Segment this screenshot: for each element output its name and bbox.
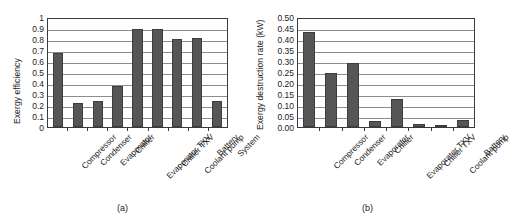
panel-caption-a: (a): [0, 203, 245, 213]
x-axis-category-labels-a: CompressorCondenserEvaporatorChillerEvap…: [0, 0, 245, 221]
panel-caption-b: (b): [245, 203, 490, 213]
panel-b: Exergy destruction rate (kW) 0.000.050.1…: [245, 0, 490, 221]
x-category-label: Chiller: [392, 132, 416, 156]
panel-a: Exergy efficiency 00.10.20.30.40.50.60.7…: [0, 0, 245, 221]
x-axis-category-labels-b: CompressorCondenserEvaporatorChillerEvap…: [245, 0, 490, 221]
x-category-label: Chiller: [133, 132, 157, 156]
